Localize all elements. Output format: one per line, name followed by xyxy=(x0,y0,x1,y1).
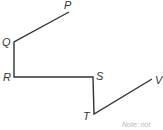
label-r: R xyxy=(3,72,11,83)
note-text: Note: not xyxy=(122,121,150,128)
polyline-diagram xyxy=(0,0,163,130)
path-pqrstv xyxy=(14,12,152,114)
label-q: Q xyxy=(2,37,11,48)
label-p: P xyxy=(64,0,71,11)
label-v: V xyxy=(155,75,162,86)
label-t: T xyxy=(83,111,90,122)
label-s: S xyxy=(96,71,103,82)
